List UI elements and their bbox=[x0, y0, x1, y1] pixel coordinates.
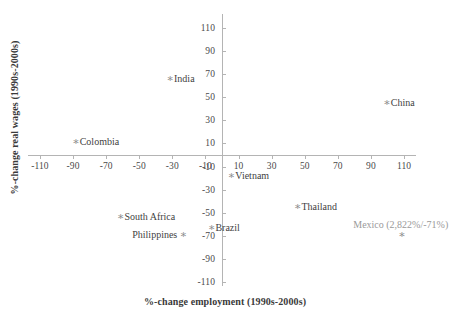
data-point-marker[interactable] bbox=[294, 203, 299, 208]
y-tick-mark bbox=[222, 51, 226, 52]
data-point-label: Philippines bbox=[132, 228, 177, 239]
y-tick-mark bbox=[222, 97, 226, 98]
y-tick-mark bbox=[222, 28, 226, 29]
y-tick-mark bbox=[222, 282, 226, 283]
x-tick-mark bbox=[205, 155, 206, 159]
data-point-label: Brazil bbox=[215, 221, 239, 232]
data-point-marker[interactable] bbox=[167, 75, 172, 80]
data-point-label: Vietnam bbox=[235, 169, 269, 180]
x-tick-mark bbox=[272, 155, 273, 159]
y-tick-mark bbox=[222, 74, 226, 75]
data-point-label: Thailand bbox=[301, 200, 337, 211]
y-tick-mark bbox=[222, 167, 226, 168]
y-tick-label: 10 bbox=[28, 138, 215, 148]
x-tick-mark bbox=[106, 155, 107, 159]
scatter-chart: -110-90-70-50-30-101030507090110 1109070… bbox=[0, 0, 450, 313]
y-tick-mark bbox=[222, 213, 226, 214]
data-point-label: South Africa bbox=[124, 211, 175, 222]
x-tick-label: 110 bbox=[397, 161, 411, 171]
y-tick-label: 50 bbox=[28, 92, 215, 102]
y-tick-mark bbox=[222, 120, 226, 121]
x-tick-mark bbox=[338, 155, 339, 159]
data-point-marker[interactable] bbox=[383, 99, 388, 104]
data-point-marker[interactable] bbox=[72, 139, 77, 144]
plot-area: -110-90-70-50-30-101030507090110 1109070… bbox=[28, 14, 416, 286]
data-point-marker[interactable] bbox=[180, 231, 185, 236]
y-tick-label: -90 bbox=[28, 254, 215, 264]
x-tick-mark bbox=[40, 155, 41, 159]
x-tick-mark bbox=[172, 155, 173, 159]
data-point-label: India bbox=[174, 72, 195, 83]
y-tick-mark bbox=[222, 236, 226, 237]
y-tick-label: 110 bbox=[28, 23, 215, 33]
x-tick-mark bbox=[305, 155, 306, 159]
y-tick-label: -70 bbox=[28, 231, 215, 241]
x-tick-label: 90 bbox=[366, 161, 376, 171]
x-tick-label: 70 bbox=[333, 161, 343, 171]
x-tick-mark bbox=[139, 155, 140, 159]
y-tick-label: -10 bbox=[28, 162, 215, 172]
y-tick-label: -110 bbox=[28, 277, 215, 287]
y-tick-mark bbox=[222, 259, 226, 260]
y-tick-label: -30 bbox=[28, 185, 215, 195]
x-tick-mark bbox=[73, 155, 74, 159]
data-point-label: Mexico (2,822%/-71%) bbox=[353, 219, 448, 230]
data-point-marker[interactable] bbox=[117, 214, 122, 219]
data-point-label: Colombia bbox=[80, 136, 119, 147]
data-point-label: China bbox=[391, 96, 415, 107]
y-axis-title: %-change real wages (1990s-2000s) bbox=[9, 18, 20, 218]
y-tick-label: 90 bbox=[28, 46, 215, 56]
y-tick-mark bbox=[222, 143, 226, 144]
y-tick-label: 30 bbox=[28, 115, 215, 125]
x-tick-mark bbox=[239, 155, 240, 159]
data-point-marker[interactable] bbox=[228, 172, 233, 177]
y-axis-line bbox=[222, 14, 223, 286]
y-tick-mark bbox=[222, 190, 226, 191]
data-point-marker[interactable] bbox=[398, 231, 403, 236]
data-point-marker[interactable] bbox=[208, 224, 213, 229]
x-tick-label: 50 bbox=[300, 161, 310, 171]
x-tick-mark bbox=[371, 155, 372, 159]
x-axis-title: %-change employment (1990s-2000s) bbox=[0, 296, 450, 307]
x-tick-mark bbox=[404, 155, 405, 159]
